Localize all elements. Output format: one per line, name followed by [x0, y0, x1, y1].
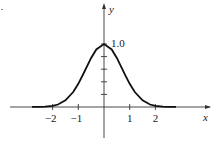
x-tick-label: 2: [153, 112, 159, 124]
y-axis-arrow-icon: [102, 3, 106, 9]
corner-mark: [1, 9, 3, 10]
x-axis-label: x: [202, 111, 208, 123]
x-tick-label: 1: [127, 112, 133, 124]
chart: y 1.0 x −2 −1 1 2: [0, 0, 222, 144]
y-axis-label: y: [108, 3, 114, 15]
x-tick-label: −2: [45, 112, 57, 124]
x-tick-label: −1: [71, 112, 83, 124]
x-axis-arrow-icon: [205, 105, 211, 109]
peak-label: 1.0: [111, 37, 125, 49]
